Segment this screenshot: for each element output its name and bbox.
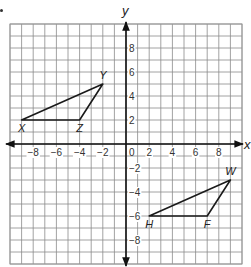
y-tick-label: 8 [129, 43, 135, 54]
x-tick-label: 2 [146, 147, 152, 158]
x-axis-label: x [243, 137, 251, 152]
y-tick-label: −2 [129, 163, 141, 174]
vertex-label-h: H [145, 218, 153, 230]
vertex-label-z: Z [75, 122, 84, 134]
triangle-xyz [22, 84, 103, 120]
vertex-label-x: X [17, 122, 26, 134]
y-tick-label: 4 [129, 91, 135, 102]
x-tick-label: −6 [51, 147, 63, 158]
y-tick-label: −4 [129, 187, 141, 198]
vertex-label-w: W [225, 165, 237, 177]
y-tick-label: 2 [129, 115, 135, 126]
y-tick-label: −6 [129, 211, 141, 222]
triangle-hfw [149, 180, 230, 216]
x-tick-label: −2 [97, 147, 109, 158]
vertex-label-y: Y [99, 69, 107, 81]
x-tick-label: 8 [216, 147, 222, 158]
y-tick-label: −8 [129, 235, 141, 246]
y-axis-label: y [121, 3, 130, 18]
x-tick-label: 6 [193, 147, 199, 158]
x-tick-label: 4 [170, 147, 176, 158]
x-tick-label: −4 [74, 147, 86, 158]
coordinate-plane: −8−6−4−2024688642−2−4−6−8 XYZHFW x y [0, 0, 251, 267]
x-tick-label: −8 [27, 147, 39, 158]
y-tick-label: 6 [129, 67, 135, 78]
x-tick-label: 0 [129, 147, 135, 158]
